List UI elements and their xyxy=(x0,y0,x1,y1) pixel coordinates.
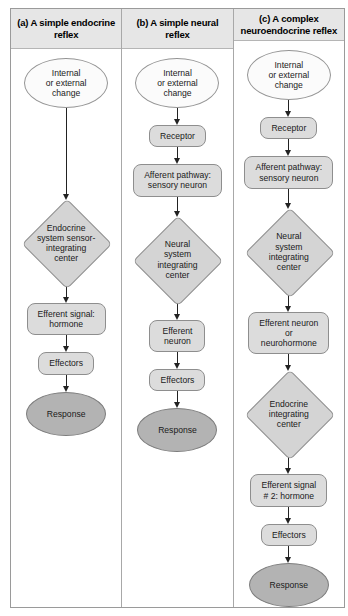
node-label: Neuralsystemintegratingcenter xyxy=(246,231,332,272)
arrow-down-icon xyxy=(62,335,71,352)
node-endocrine-integrating-center: Endocrineintegratingcenter xyxy=(246,371,332,457)
node-label: Efferent neuronorneurohormone xyxy=(257,318,320,349)
column-a: (a) A simple endocrine reflexInternalor … xyxy=(11,9,122,607)
arrow-down-icon xyxy=(284,507,293,524)
node-afferent-pathway: Afferent pathway:sensory neuron xyxy=(244,156,333,188)
arrow-down-icon xyxy=(173,391,182,408)
column-b-header: (b) A simple neural reflex xyxy=(122,9,232,49)
arrow-down-icon xyxy=(284,354,293,371)
node-label: Efferent signal:hormone xyxy=(36,309,97,329)
node-stimulus: Internalor externalchange xyxy=(135,58,219,108)
node-label: Response xyxy=(267,580,310,590)
node-label: Effectors xyxy=(159,375,197,385)
node-receptor: Receptor xyxy=(260,117,317,139)
arrow-head xyxy=(285,306,291,312)
node-response: Response xyxy=(249,563,329,607)
column-c-header: (c) A complex neuroendocrine reflex xyxy=(234,9,344,41)
node-afferent-pathway: Afferent pathway:sensory neuron xyxy=(133,164,222,196)
arrow-head xyxy=(285,518,291,524)
node-efferent-neuron: Efferent neuronorneurohormone xyxy=(248,312,329,355)
node-label: Internalor externalchange xyxy=(267,60,312,91)
arrow-head xyxy=(63,386,69,392)
node-effectors: Effectors xyxy=(38,352,94,374)
column-a-flow: Internalor externalchangeEndocrinesystem… xyxy=(23,49,109,436)
column-b-flow: Internalor externalchangeReceptorAfferen… xyxy=(133,49,222,452)
node-label: Efferent signal# 2: hormone xyxy=(259,480,318,500)
arrow-down-icon xyxy=(62,375,71,392)
node-label: Response xyxy=(45,409,88,419)
arrow-shaft xyxy=(288,189,289,204)
node-neural-integrating-center: Neuralsystemintegratingcenter xyxy=(246,209,332,295)
arrow-down-icon xyxy=(173,352,182,369)
arrow-head xyxy=(174,314,180,320)
arrow-down-icon xyxy=(284,546,293,563)
node-label: Internalor externalchange xyxy=(44,68,89,99)
column-b: (b) A simple neural reflexInternalor ext… xyxy=(122,9,233,607)
column-c: (c) A complex neuroendocrine reflexInter… xyxy=(234,9,344,607)
node-response: Response xyxy=(26,392,106,436)
arrow-down-icon xyxy=(284,100,293,117)
node-label: Neuralsystemintegratingcenter xyxy=(134,239,220,280)
node-label: Effectors xyxy=(270,530,308,540)
column-c-flow: Internalor externalchangeReceptorAfferen… xyxy=(244,41,333,607)
node-receptor: Receptor xyxy=(149,125,206,147)
node-label: Endocrineintegratingcenter xyxy=(246,399,332,430)
node-stimulus: Internalor externalchange xyxy=(247,50,331,100)
arrow-down-icon xyxy=(173,197,182,217)
arrow-down-icon xyxy=(62,286,71,303)
reflex-pathways-figure: (a) A simple endocrine reflexInternalor … xyxy=(10,8,345,608)
arrow-down-icon xyxy=(173,108,182,125)
arrow-down-icon xyxy=(284,189,293,209)
node-label: Afferent pathway:sensory neuron xyxy=(142,170,213,190)
node-label: Endocrinesystem sensor-integratingcenter xyxy=(23,223,109,264)
node-efferent-signal-2: Efferent signal# 2: hormone xyxy=(250,474,327,506)
column-a-header: (a) A simple endocrine reflex xyxy=(11,9,121,49)
column-a-title: (a) A simple endocrine reflex xyxy=(14,17,118,40)
node-label: Response xyxy=(156,425,199,435)
node-label: Efferentneuron xyxy=(161,326,195,346)
arrow-down-icon xyxy=(284,295,293,312)
column-b-title: (b) A simple neural reflex xyxy=(125,17,229,40)
arrow-shaft xyxy=(177,197,178,212)
node-label: Internalor externalchange xyxy=(155,68,200,99)
arrow-down-icon xyxy=(284,139,293,156)
node-efferent-neuron: Efferentneuron xyxy=(149,320,205,352)
arrow-down-icon xyxy=(62,108,71,200)
arrow-down-icon xyxy=(284,457,293,474)
node-effectors: Effectors xyxy=(149,369,205,391)
node-integrating-center: Endocrinesystem sensor-integratingcenter xyxy=(23,200,109,286)
node-efferent-signal: Efferent signal:hormone xyxy=(27,303,106,335)
node-integrating-center: Neuralsystemintegratingcenter xyxy=(134,217,220,303)
node-response: Response xyxy=(137,408,217,452)
node-label: Receptor xyxy=(158,131,197,141)
node-label: Afferent pathway:sensory neuron xyxy=(253,162,324,182)
column-c-title: (c) A complex neuroendocrine reflex xyxy=(237,13,341,36)
arrow-shaft xyxy=(66,108,67,195)
arrow-down-icon xyxy=(173,147,182,164)
node-label: Effectors xyxy=(47,358,85,368)
arrow-down-icon xyxy=(173,303,182,320)
node-stimulus: Internalor externalchange xyxy=(24,58,108,108)
node-effectors: Effectors xyxy=(261,524,317,546)
node-label: Receptor xyxy=(269,123,308,133)
